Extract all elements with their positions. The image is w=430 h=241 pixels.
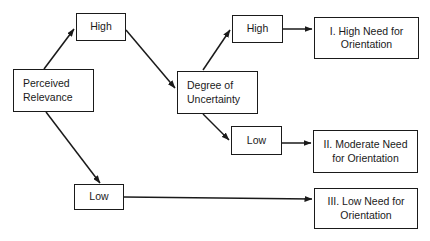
high-relevance-node: High [76, 13, 126, 41]
degree-of-uncertainty-node: Degree of Uncertainty [177, 71, 258, 114]
outcome-moderate-need-node: II. Moderate Need for Orientation [313, 130, 418, 173]
node-label: High [90, 20, 112, 33]
node-label: III. Low Need for Orientation [327, 195, 404, 221]
perceived-relevance-node: Perceived Relevance [13, 69, 94, 112]
node-label: Perceived Relevance [23, 77, 73, 103]
outcome-low-need-node: III. Low Need for Orientation [314, 188, 418, 229]
node-label: Low [89, 190, 108, 203]
node-label: II. Moderate Need for Orientation [323, 138, 407, 164]
arrow-relevance-to-low [46, 112, 100, 183]
arrow-relevance-to-high [44, 29, 74, 69]
node-label: Low [247, 134, 266, 147]
node-label: I. High Need for Orientation [330, 25, 404, 51]
need-for-orientation-diagram: Perceived Relevance High Low Degree of U… [0, 0, 430, 241]
node-label: Degree of Uncertainty [187, 79, 240, 105]
arrow-uncertainty-to-high [203, 30, 230, 70]
outcome-high-need-node: I. High Need for Orientation [314, 17, 419, 59]
arrow-uncertainty-to-low [203, 114, 229, 140]
low-uncertainty-node: Low [231, 126, 282, 155]
high-uncertainty-node: High [232, 15, 283, 43]
arrow-low-to-outcome-low [124, 197, 312, 199]
low-relevance-node: Low [74, 184, 124, 210]
node-label: High [247, 22, 269, 35]
arrow-high-to-uncertainty [126, 30, 175, 88]
